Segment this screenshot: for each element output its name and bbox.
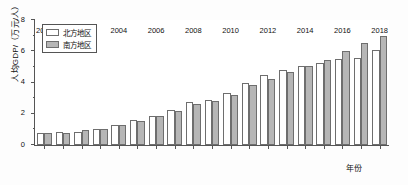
x-axis-tick-label: 2014 (297, 26, 314, 35)
x-axis-tick (82, 145, 83, 149)
bar-south (305, 66, 312, 145)
bar-group (128, 20, 147, 145)
bar-south (212, 101, 219, 145)
chart-container: 人均GDP/（万元/人） 年份 024682000200220042006200… (0, 0, 408, 185)
bar-group (370, 20, 389, 145)
legend-item-south: 南方地区 (46, 39, 91, 50)
x-axis-title: 年份 (346, 162, 362, 173)
chart-legend: 北方地区 南方地区 (42, 24, 97, 53)
x-axis-tick (249, 145, 250, 149)
bar-north (223, 93, 230, 145)
bar-south (268, 79, 275, 145)
bar-group (240, 20, 259, 145)
bar-south (82, 130, 89, 145)
x-axis-tick (63, 145, 64, 149)
legend-item-north: 北方地区 (46, 27, 91, 38)
bar-group (296, 20, 315, 145)
bar-north (242, 83, 249, 146)
x-axis-tick (287, 145, 288, 149)
bar-group (110, 20, 129, 145)
bar-north (74, 132, 81, 145)
bar-south (361, 43, 368, 145)
bar-group (259, 20, 278, 145)
x-axis-tick (380, 145, 381, 149)
bar-group (221, 20, 240, 145)
bar-group (314, 20, 333, 145)
x-axis-tick (324, 145, 325, 149)
x-axis-tick (119, 145, 120, 149)
bar-south (63, 133, 70, 146)
x-axis-tick-label: 2004 (110, 26, 127, 35)
bar-group (147, 20, 166, 145)
x-axis-tick (268, 145, 269, 149)
x-axis-tick (156, 145, 157, 149)
x-axis-tick (44, 145, 45, 149)
x-axis-tick-label: 2006 (148, 26, 165, 35)
bar-group (165, 20, 184, 145)
bar-south (231, 95, 238, 145)
bar-north (111, 125, 118, 145)
bar-group (184, 20, 203, 145)
bar-south (100, 129, 107, 145)
x-axis-tick-label: 2008 (185, 26, 202, 35)
bar-north (279, 70, 286, 145)
bar-south (249, 85, 256, 145)
bar-north (186, 102, 193, 145)
legend-label-south: 南方地区 (63, 39, 91, 50)
bar-south (119, 125, 126, 145)
x-axis-tick (137, 145, 138, 149)
bar-south (137, 121, 144, 145)
x-axis-tick (212, 145, 213, 149)
bar-north (354, 58, 361, 145)
legend-swatch-north (46, 29, 59, 36)
y-axis-tick-label: 8 (21, 15, 25, 24)
x-axis-tick-label: 2018 (371, 26, 388, 35)
x-axis-tick (305, 145, 306, 149)
bar-south (380, 36, 387, 145)
bar-north (316, 63, 323, 145)
x-axis-tick (100, 145, 101, 149)
bar-north (130, 120, 137, 145)
x-axis-tick-label: 2016 (334, 26, 351, 35)
bar-north (37, 133, 44, 145)
bar-north (260, 75, 267, 145)
bar-south (44, 133, 51, 145)
bar-group (203, 20, 222, 145)
bar-south (342, 51, 349, 145)
x-axis-tick (193, 145, 194, 149)
x-axis-tick-label: 2010 (222, 26, 239, 35)
bar-north (167, 110, 174, 145)
x-axis-tick (231, 145, 232, 149)
y-axis-tick-label: 6 (21, 46, 25, 55)
legend-swatch-south (46, 41, 59, 48)
y-axis-tick-label: 2 (21, 108, 25, 117)
y-axis-title: 人均GDP/（万元/人） (9, 0, 20, 102)
bar-north (93, 129, 100, 145)
bar-north (298, 66, 305, 145)
bar-south (193, 104, 200, 145)
bar-south (324, 60, 331, 145)
x-axis-tick (175, 145, 176, 149)
x-axis-tick-label: 2012 (260, 26, 277, 35)
bar-north (372, 50, 379, 145)
bar-south (156, 116, 163, 145)
bar-north (56, 132, 63, 145)
bar-group (352, 20, 371, 145)
bar-south (175, 111, 182, 145)
x-axis-tick (342, 145, 343, 149)
bar-group (333, 20, 352, 145)
legend-label-north: 北方地区 (63, 27, 91, 38)
bar-south (287, 72, 294, 145)
bar-north (205, 100, 212, 145)
bar-north (149, 116, 156, 145)
bar-group (277, 20, 296, 145)
y-axis-tick-label: 4 (21, 77, 25, 86)
y-axis-tick-label: 0 (21, 140, 25, 149)
x-axis-tick (361, 145, 362, 149)
bar-north (335, 59, 342, 145)
